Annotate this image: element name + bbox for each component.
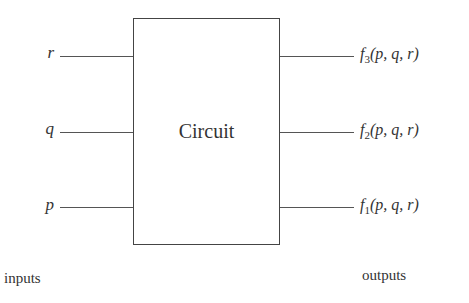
input-label-r: r xyxy=(34,43,54,63)
input-wire-p xyxy=(60,207,133,208)
output-wire-f2 xyxy=(280,132,354,133)
input-wire-r xyxy=(60,56,133,57)
output-label-f3: f3(p, q, r) xyxy=(360,45,419,65)
input-wire-q xyxy=(60,132,133,133)
input-label-q: q xyxy=(34,119,54,139)
output-label-f1: f1(p, q, r) xyxy=(360,196,419,216)
input-label-p: p xyxy=(34,195,54,215)
circuit-box-label: Circuit xyxy=(133,18,280,245)
output-wire-f1 xyxy=(280,207,354,208)
inputs-caption: inputs xyxy=(4,270,41,287)
output-label-f2: f2(p, q, r) xyxy=(360,121,419,141)
output-wire-f3 xyxy=(280,56,354,57)
outputs-caption: outputs xyxy=(362,267,406,284)
